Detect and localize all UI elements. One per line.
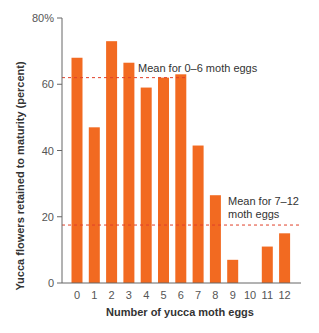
x-axis-ticks: 0123456789101112	[74, 289, 291, 301]
x-tick-label: 7	[195, 289, 201, 301]
bar-9	[227, 260, 238, 283]
mean-label-7-12-line: moth eggs	[228, 208, 280, 220]
bar-8	[210, 195, 221, 283]
x-tick-label: 4	[143, 289, 149, 301]
bar-1	[89, 127, 100, 283]
y-tick-label: 60	[42, 78, 54, 90]
x-tick-label: 5	[160, 289, 166, 301]
x-axis-title: Number of yucca moth eggs	[106, 306, 254, 318]
x-tick-label: 2	[109, 289, 115, 301]
x-tick-label: 1	[91, 289, 97, 301]
y-tick-label: 20	[42, 211, 54, 223]
mean-label-7-12-line: Mean for 7–12	[228, 195, 299, 207]
x-tick-label: 9	[230, 289, 236, 301]
x-tick-label: 3	[126, 289, 132, 301]
bar-11	[262, 247, 273, 283]
bar-4	[141, 88, 152, 283]
bar-3	[123, 63, 134, 283]
y-tick-label: 0	[48, 277, 54, 289]
bar-5	[158, 78, 169, 283]
bar-12	[279, 233, 290, 283]
bar-6	[175, 74, 186, 283]
x-tick-label: 11	[262, 289, 273, 301]
bar-0	[72, 58, 83, 283]
x-tick-label: 6	[178, 289, 184, 301]
x-tick-label: 8	[212, 289, 218, 301]
x-tick-label: 12	[278, 289, 290, 301]
y-tick-label: 40	[42, 145, 54, 157]
x-tick-label: 0	[74, 289, 80, 301]
y-axis-title: Yucca flowers retained to maturity (perc…	[14, 61, 26, 291]
bar-7	[193, 146, 204, 283]
y-tick-label: 80%	[32, 12, 54, 24]
x-tick-label: 10	[244, 289, 256, 301]
y-axis-ticks: 020406080%	[32, 12, 62, 289]
mean-label-0-6: Mean for 0–6 moth eggs	[138, 62, 258, 74]
bar-chart: 020406080% 0123456789101112 Mean for 0–6…	[0, 0, 319, 333]
